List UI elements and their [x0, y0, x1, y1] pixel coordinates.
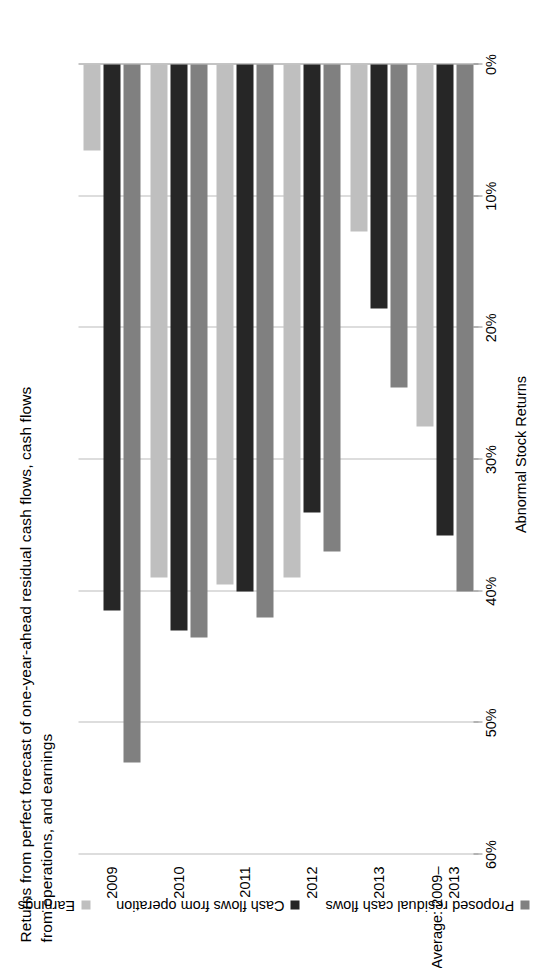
- tick-label: 20%: [482, 313, 498, 342]
- chart-legend: Proposed residual cash flowsCash flows f…: [0, 930, 549, 950]
- category-label: 2010: [170, 866, 187, 898]
- category-label-line: Average: 2009–: [428, 866, 445, 968]
- category-label: 2009: [103, 866, 120, 898]
- legend-swatch-icon: [520, 901, 529, 910]
- bar-group: [150, 64, 207, 854]
- tick-label: 40%: [482, 576, 498, 605]
- legend-item[interactable]: Proposed residual cash flows: [325, 897, 529, 913]
- tick-label: 50%: [482, 708, 498, 737]
- bar-group: [283, 64, 340, 854]
- bar: [283, 64, 300, 578]
- bar: [150, 64, 167, 578]
- bar: [303, 64, 320, 512]
- bar: [170, 64, 187, 630]
- category-label-line: 2009: [103, 866, 120, 898]
- bar: [350, 64, 367, 231]
- bar: [190, 64, 207, 637]
- bar: [256, 64, 273, 617]
- bar-group: [416, 64, 473, 854]
- category-label-line: 2011: [236, 866, 253, 897]
- plot-area: [78, 64, 478, 854]
- value-axis-ticks: 60%50%40%30%20%10%0%: [482, 64, 508, 854]
- tick-mark: [473, 721, 482, 722]
- bar: [390, 64, 407, 387]
- bar: [323, 64, 340, 551]
- bar-group: [216, 64, 273, 854]
- legend-label: Earnings: [17, 897, 74, 913]
- tick-mark: [473, 458, 482, 459]
- legend-swatch-icon: [81, 901, 90, 910]
- category-label: 2011: [236, 866, 253, 897]
- category-label: 2013: [370, 866, 387, 898]
- category-label-line: 2012: [303, 866, 320, 898]
- tick-mark: [473, 326, 482, 327]
- tick-mark: [473, 63, 482, 64]
- tick-label: 10%: [482, 181, 498, 210]
- bar: [416, 64, 433, 426]
- chart-title-line-2: from operations, and earnings: [35, 242, 56, 942]
- tick-mark: [473, 590, 482, 591]
- bar: [123, 64, 140, 762]
- bar: [103, 64, 120, 610]
- bar: [216, 64, 233, 584]
- legend-label: Proposed residual cash flows: [325, 897, 514, 913]
- category-label-line: 2013: [445, 866, 462, 968]
- bar-group: [83, 64, 140, 854]
- bar: [436, 64, 453, 535]
- tick-label: 30%: [482, 444, 498, 473]
- legend-label: Cash flows from operation: [116, 897, 284, 913]
- category-label-line: 2010: [170, 866, 187, 898]
- chart-title-line-1: Returns from perfect forecast of one-yea…: [14, 242, 35, 942]
- value-axis-title: Abnormal Stock Returns: [512, 154, 528, 754]
- bar: [370, 64, 387, 308]
- bar-group: [350, 64, 407, 854]
- tick-mark: [473, 853, 482, 854]
- tick-label: 60%: [482, 839, 498, 868]
- legend-swatch-icon: [290, 901, 299, 910]
- legend-item[interactable]: Cash flows from operation: [116, 897, 299, 913]
- tick-mark: [473, 195, 482, 196]
- legend-item[interactable]: Earnings: [17, 897, 89, 913]
- chart-title: Returns from perfect forecast of one-yea…: [14, 242, 56, 942]
- tick-label: 0%: [482, 54, 498, 75]
- category-label-line: 2013: [370, 866, 387, 898]
- bar: [456, 64, 473, 591]
- category-label: Average: 2009–2013: [428, 866, 462, 968]
- bar: [83, 64, 100, 150]
- category-label: 2012: [303, 866, 320, 898]
- bar: [236, 64, 253, 591]
